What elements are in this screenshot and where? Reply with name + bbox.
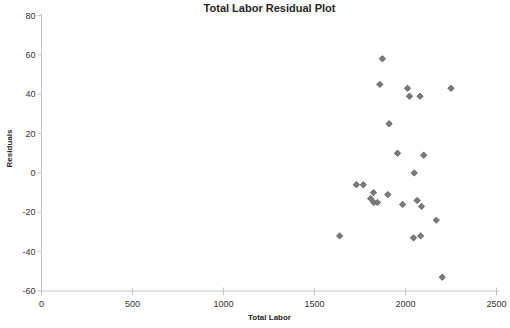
y-tick-label: -20 [22, 207, 35, 217]
y-tick-label: 20 [25, 129, 35, 139]
data-point-marker [377, 81, 383, 87]
data-point-marker [404, 85, 410, 91]
data-point-marker [410, 235, 416, 241]
x-tick-label: 500 [125, 299, 140, 309]
data-point-marker [379, 56, 385, 62]
x-tick-label: 0 [39, 299, 44, 309]
x-tick-label: 2000 [395, 299, 415, 309]
data-point-marker [414, 197, 420, 203]
x-axis-title: Total Labor [42, 313, 497, 322]
data-point-marker [421, 152, 427, 158]
data-point-marker [448, 85, 454, 91]
y-tick-label: 60 [25, 50, 35, 60]
data-point-marker [336, 233, 342, 239]
residual-plot-chart: Total Labor Residual Plot Residuals 8060… [0, 0, 510, 328]
data-point-marker [418, 203, 424, 209]
data-point-marker [439, 274, 445, 280]
x-tick-label: 1000 [213, 299, 233, 309]
x-tick-label: 2500 [486, 299, 506, 309]
y-tick-label: 40 [25, 89, 35, 99]
plot-area: 806040200-20-40-6005001000150020002500 [0, 0, 510, 328]
y-tick-label: 0 [30, 168, 35, 178]
data-point-marker [394, 150, 400, 156]
data-point-marker [417, 93, 423, 99]
data-point-marker [360, 182, 366, 188]
data-point-marker [386, 121, 392, 127]
x-tick-label: 1500 [304, 299, 324, 309]
data-point-marker [399, 201, 405, 207]
data-point-marker [406, 93, 412, 99]
y-tick-label: -60 [22, 286, 35, 296]
data-point-marker [353, 182, 359, 188]
y-tick-label: 80 [25, 11, 35, 21]
y-tick-label: -40 [22, 247, 35, 257]
data-point-marker [433, 217, 439, 223]
data-point-marker [417, 233, 423, 239]
data-point-marker [370, 189, 376, 195]
data-point-marker [411, 170, 417, 176]
data-point-marker [385, 191, 391, 197]
